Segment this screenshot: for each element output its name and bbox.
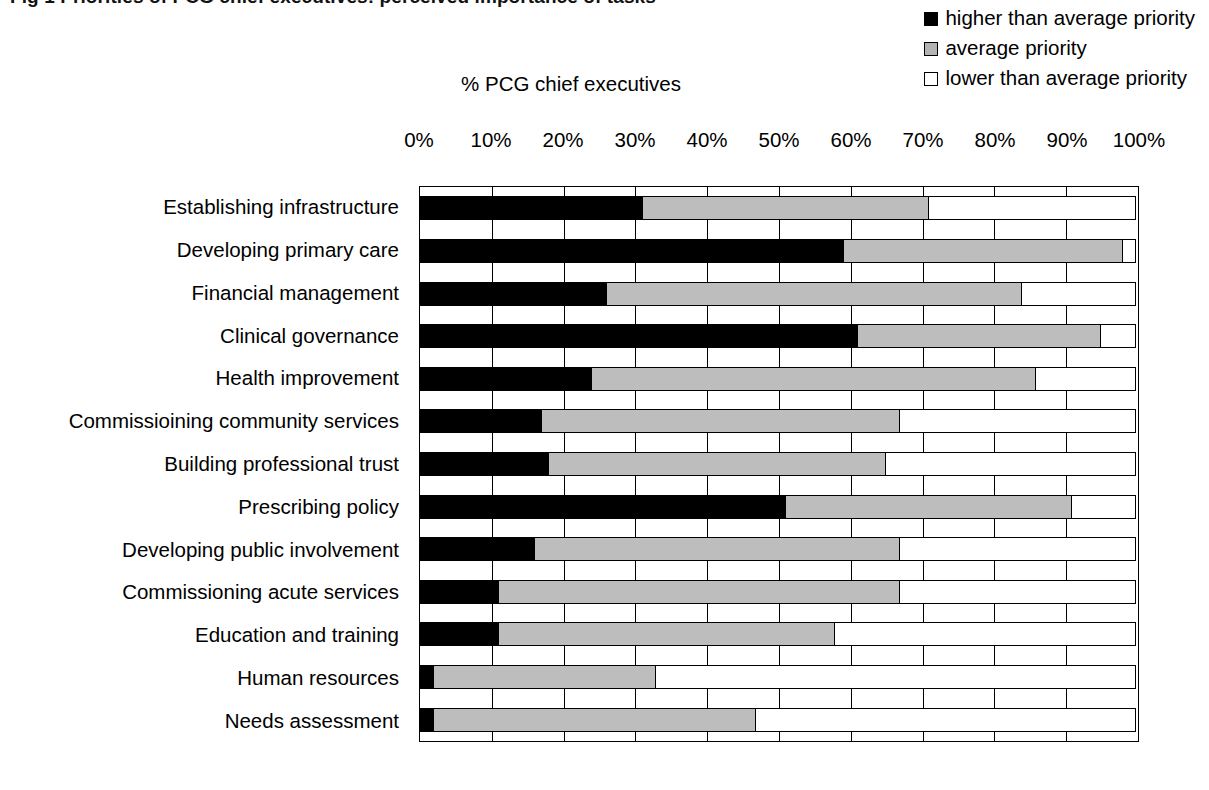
bar-segment bbox=[899, 537, 1136, 561]
x-tick-label: 40% bbox=[686, 128, 727, 152]
stacked-bar bbox=[420, 580, 1138, 604]
bar-row bbox=[420, 443, 1138, 486]
bar-segment bbox=[606, 282, 1022, 306]
bar-row bbox=[420, 187, 1138, 230]
bar-segment bbox=[541, 409, 900, 433]
bar-segment bbox=[420, 580, 499, 604]
bar-segment bbox=[834, 622, 1136, 646]
bar-segment bbox=[843, 239, 1123, 263]
bar-segment bbox=[785, 495, 1072, 519]
y-axis-category-label: Health improvement bbox=[0, 357, 409, 400]
plot-area bbox=[419, 186, 1139, 742]
bar-segment bbox=[928, 196, 1136, 220]
y-axis-category-label: Needs assessment bbox=[0, 699, 409, 742]
bar-segment bbox=[498, 580, 900, 604]
bar-row bbox=[420, 230, 1138, 273]
x-tick-label: 100% bbox=[1113, 128, 1165, 152]
stacked-bar bbox=[420, 239, 1138, 263]
bar-segment bbox=[433, 665, 656, 689]
x-tick-label: 50% bbox=[758, 128, 799, 152]
y-axis-category-label: Clinical governance bbox=[0, 314, 409, 357]
y-axis-category-label: Building professional trust bbox=[0, 443, 409, 486]
x-tick-label: 70% bbox=[902, 128, 943, 152]
x-tick-label: 10% bbox=[470, 128, 511, 152]
bar-segment bbox=[1035, 367, 1136, 391]
bar-segment bbox=[433, 708, 756, 732]
bar-row bbox=[420, 613, 1138, 656]
y-axis-category-label: Establishing infrastructure bbox=[0, 186, 409, 229]
stacked-bar bbox=[420, 495, 1138, 519]
bar-rows bbox=[420, 187, 1138, 741]
stacked-bar bbox=[420, 409, 1138, 433]
y-axis-category-label: Commissioning acute services bbox=[0, 571, 409, 614]
stacked-bar bbox=[420, 622, 1138, 646]
bar-segment bbox=[1021, 282, 1136, 306]
bar-segment bbox=[655, 665, 1136, 689]
stacked-bar bbox=[420, 537, 1138, 561]
y-axis-category-labels: Establishing infrastructureDeveloping pr… bbox=[0, 186, 409, 742]
bar-segment bbox=[420, 367, 592, 391]
stacked-bar bbox=[420, 282, 1138, 306]
bar-segment bbox=[857, 324, 1101, 348]
bar-row bbox=[420, 570, 1138, 613]
bar-segment bbox=[420, 324, 858, 348]
bar-segment bbox=[498, 622, 835, 646]
x-tick-label: 30% bbox=[614, 128, 655, 152]
y-axis-category-label: Financial management bbox=[0, 272, 409, 315]
bar-segment bbox=[642, 196, 929, 220]
x-tick-label: 60% bbox=[830, 128, 871, 152]
bar-segment bbox=[899, 580, 1136, 604]
stacked-bar bbox=[420, 196, 1138, 220]
bar-segment bbox=[420, 537, 535, 561]
bar-segment bbox=[1122, 239, 1136, 263]
bar-row bbox=[420, 528, 1138, 571]
bar-row bbox=[420, 357, 1138, 400]
y-axis-category-label: Commissioining community services bbox=[0, 400, 409, 443]
bar-row bbox=[420, 272, 1138, 315]
bar-segment bbox=[420, 409, 542, 433]
y-axis-category-label: Prescribing policy bbox=[0, 485, 409, 528]
x-tick-label: 90% bbox=[1046, 128, 1087, 152]
bar-segment bbox=[885, 452, 1136, 476]
stacked-bar bbox=[420, 367, 1138, 391]
bar-segment bbox=[755, 708, 1136, 732]
bar-segment bbox=[548, 452, 885, 476]
stacked-bar bbox=[420, 452, 1138, 476]
bar-segment bbox=[899, 409, 1136, 433]
y-axis-category-label: Developing primary care bbox=[0, 229, 409, 272]
bar-segment bbox=[591, 367, 1036, 391]
stacked-bar bbox=[420, 665, 1138, 689]
x-axis-tick-labels: 0%10%20%30%40%50%60%70%80%90%100% bbox=[419, 128, 1139, 156]
chart-plot-wrapper: 0%10%20%30%40%50%60%70%80%90%100% Establ… bbox=[0, 0, 1209, 790]
y-axis-category-label: Human resources bbox=[0, 656, 409, 699]
stacked-bar bbox=[420, 324, 1138, 348]
bar-segment bbox=[534, 537, 900, 561]
bar-segment bbox=[420, 452, 549, 476]
bar-row bbox=[420, 400, 1138, 443]
bar-row bbox=[420, 656, 1138, 699]
x-tick-label: 0% bbox=[404, 128, 434, 152]
bar-segment bbox=[420, 196, 643, 220]
bar-segment bbox=[420, 282, 607, 306]
bar-segment bbox=[420, 708, 434, 732]
bar-row bbox=[420, 485, 1138, 528]
bar-segment bbox=[420, 495, 786, 519]
bar-segment bbox=[1100, 324, 1136, 348]
bar-segment bbox=[420, 665, 434, 689]
x-tick-label: 80% bbox=[974, 128, 1015, 152]
bar-row bbox=[420, 698, 1138, 741]
bar-row bbox=[420, 315, 1138, 358]
y-axis-category-label: Education and training bbox=[0, 614, 409, 657]
x-tick-label: 20% bbox=[542, 128, 583, 152]
stacked-bar bbox=[420, 708, 1138, 732]
bar-segment bbox=[420, 622, 499, 646]
bar-segment bbox=[1071, 495, 1136, 519]
bar-segment bbox=[420, 239, 844, 263]
y-axis-category-label: Developing public involvement bbox=[0, 528, 409, 571]
